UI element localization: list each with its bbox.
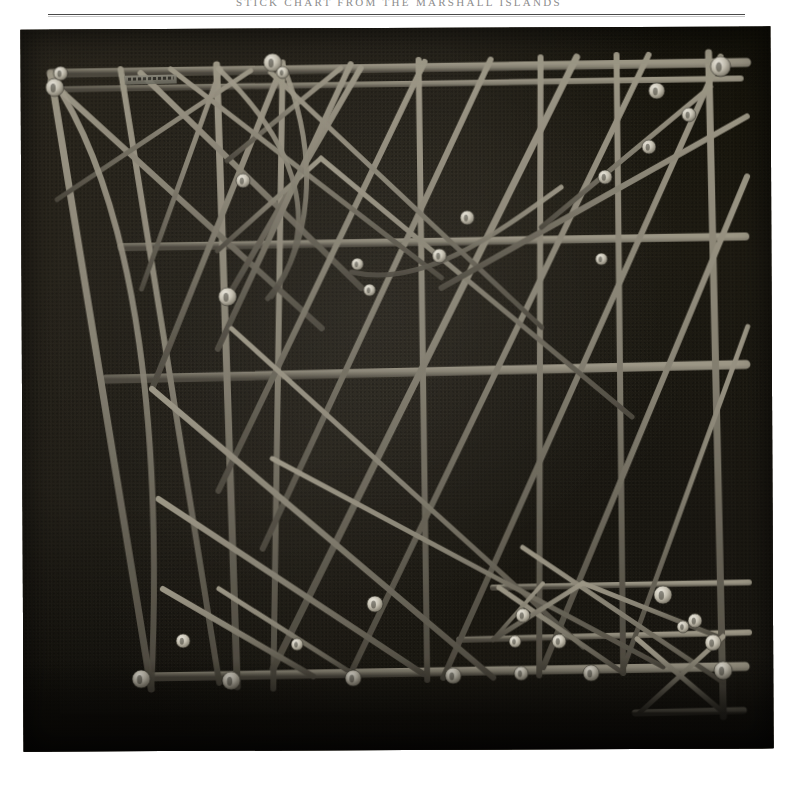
shell-aperture xyxy=(371,600,376,608)
stick-rib xyxy=(622,326,749,669)
shell-aperture xyxy=(653,87,658,95)
shell-aperture xyxy=(709,639,714,647)
shell-aperture xyxy=(716,62,722,72)
shell-aperture xyxy=(680,624,684,630)
shell-aperture xyxy=(602,174,606,181)
shell-aperture xyxy=(240,178,244,185)
header-rule xyxy=(48,14,745,15)
shell-aperture xyxy=(367,287,371,293)
scanned-page: STICK CHART FROM THE MARSHALL ISLANDS xyxy=(0,0,798,786)
stick-rib xyxy=(617,55,624,673)
shell-aperture xyxy=(646,144,650,151)
shell-aperture xyxy=(180,638,184,645)
stick-chart-photograph xyxy=(20,26,773,751)
shell-aperture xyxy=(57,70,61,77)
stick-rib xyxy=(152,388,493,679)
shell-aperture xyxy=(512,639,516,645)
shell-aperture xyxy=(436,253,440,260)
label-tag-text xyxy=(128,76,174,80)
shell-aperture xyxy=(685,112,689,119)
shell-aperture xyxy=(355,261,359,267)
shell-aperture xyxy=(50,83,55,92)
shell-aperture xyxy=(223,293,228,302)
shell-aperture xyxy=(599,256,603,262)
stick-rib xyxy=(709,53,724,717)
specimen-label-tag xyxy=(125,74,177,84)
running-header: STICK CHART FROM THE MARSHALL ISLANDS xyxy=(0,0,798,6)
stick-rib xyxy=(441,116,748,287)
shell-aperture xyxy=(692,618,696,625)
stick-chart-lattice xyxy=(20,26,773,751)
shell-aperture xyxy=(294,642,298,648)
shell-aperture xyxy=(268,58,273,67)
shell-aperture xyxy=(659,591,664,600)
shell-aperture xyxy=(520,612,524,619)
shell-aperture xyxy=(556,638,560,645)
stick-rib xyxy=(351,55,652,668)
shell-aperture xyxy=(280,70,284,76)
stick-rib xyxy=(271,71,542,328)
photo-bottom-shadow xyxy=(23,656,773,751)
shell-aperture xyxy=(464,215,468,222)
